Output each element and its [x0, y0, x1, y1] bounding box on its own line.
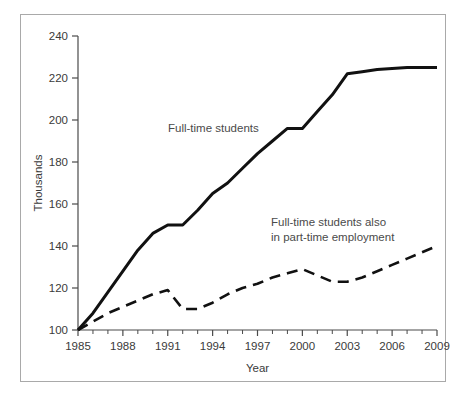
- series-full-time-students: [78, 68, 437, 331]
- part-time-employment-label-line2: in part-time employment: [271, 231, 395, 243]
- x-tick-label: 2009: [424, 340, 450, 352]
- x-axis-title: Year: [246, 362, 269, 374]
- line-chart: 1001201401601802002202401985198819911994…: [0, 0, 464, 396]
- chart-figure: 1001201401601802002202401985198819911994…: [0, 0, 464, 396]
- y-tick-label: 200: [49, 114, 68, 126]
- x-tick-label: 1988: [110, 340, 136, 352]
- full-time-students-label: Full-time students: [168, 122, 259, 134]
- part-time-employment-label-line1: Full-time students also: [271, 216, 386, 228]
- y-tick-label: 100: [49, 324, 68, 336]
- x-tick-label: 1994: [200, 340, 226, 352]
- y-tick-label: 140: [49, 240, 68, 252]
- x-tick-label: 2006: [379, 340, 405, 352]
- y-axis-title: Thousands: [32, 154, 44, 211]
- x-tick-label: 2000: [290, 340, 316, 352]
- y-tick-label: 160: [49, 198, 68, 210]
- x-tick-label: 1991: [155, 340, 181, 352]
- x-tick-label: 1997: [245, 340, 271, 352]
- y-tick-label: 240: [49, 30, 68, 42]
- x-tick-label: 2003: [334, 340, 360, 352]
- y-tick-label: 180: [49, 156, 68, 168]
- y-tick-label: 120: [49, 282, 68, 294]
- x-tick-label: 1985: [65, 340, 91, 352]
- y-tick-label: 220: [49, 72, 68, 84]
